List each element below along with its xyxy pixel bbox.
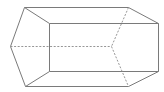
pentagonal-prism-diagram bbox=[0, 0, 164, 92]
visible-edges bbox=[11, 8, 159, 87]
edge-E-A bbox=[11, 8, 25, 47]
hidden-edge-E2-D2 bbox=[112, 47, 129, 87]
edge-A-B bbox=[25, 8, 50, 24]
edge-D-E bbox=[11, 47, 26, 87]
hidden-edges bbox=[11, 8, 129, 87]
edge-C-D bbox=[26, 72, 50, 87]
edge-A2-B2 bbox=[129, 8, 159, 24]
hidden-edge-A2-E2 bbox=[112, 8, 129, 47]
edge-C2-D2 bbox=[129, 72, 159, 87]
